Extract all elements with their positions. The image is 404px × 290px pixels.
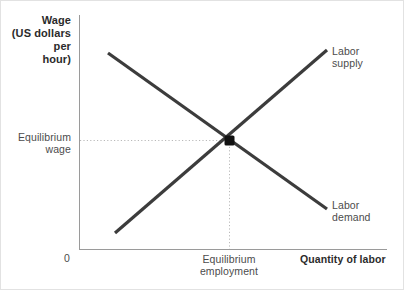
labor-market-equilibrium-chart: Wage (US dollars per hour) Equilibrium w… [0, 0, 404, 290]
labor-supply-curve [115, 50, 327, 233]
equilibrium-employment-label: Equilibrium employment [179, 253, 279, 278]
labor-supply-series-label: Labor supply [332, 45, 363, 70]
equilibrium-point-marker [225, 136, 235, 146]
labor-demand-series-label: Labor demand [332, 199, 371, 224]
origin-label: 0 [64, 252, 70, 264]
x-axis-title: Quantity of labor [300, 253, 386, 265]
equilibrium-wage-label: Equilibrium wage [0, 131, 71, 156]
y-axis-title: Wage (US dollars per hour) [0, 14, 71, 66]
